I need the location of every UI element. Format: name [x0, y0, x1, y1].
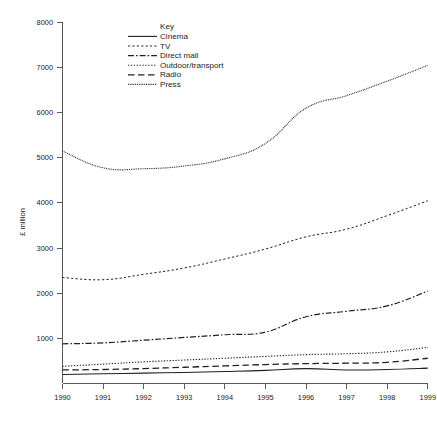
x-tick-label-1997: 1997	[338, 393, 354, 402]
legend-label-direct-mail: Direct mail	[160, 51, 198, 60]
legend-label-press: Press	[160, 80, 181, 89]
legend-label-cinema: Cinema	[160, 32, 188, 41]
chart-legend: Key CinemaTVDirect mailOutdoor/transport…	[128, 22, 224, 89]
legend-title: Key	[160, 22, 175, 31]
x-tick-label-1991: 1991	[95, 393, 111, 402]
series-line-radio	[63, 358, 428, 370]
y-tick-label-5000: 5000	[37, 153, 53, 162]
y-tick-label-1000: 1000	[37, 334, 53, 343]
legend-label-outdoor-transport: Outdoor/transport	[160, 61, 224, 70]
x-tick-label-1994: 1994	[217, 393, 233, 402]
x-tick-label-1998: 1998	[379, 393, 395, 402]
series-line-direct-mail	[63, 291, 428, 344]
y-tick-label-7000: 7000	[37, 63, 53, 72]
y-tick-label-2000: 2000	[37, 289, 53, 298]
y-tick-label-3000: 3000	[37, 244, 53, 253]
y-tick-label-4000: 4000	[37, 198, 53, 207]
y-tick-label-6000: 6000	[37, 108, 53, 117]
x-tick-label-1990: 1990	[54, 393, 70, 402]
x-tick-label-1995: 1995	[257, 393, 273, 402]
x-tick-label-1993: 1993	[176, 393, 192, 402]
x-axis-ticks: 1990 1991 1992 1993 1994 1995 1996 1997 …	[54, 384, 436, 403]
line-chart: 8000 7000 6000 5000 4000 3000 2000 1000 …	[0, 0, 437, 421]
chart-canvas: 8000 7000 6000 5000 4000 3000 2000 1000 …	[0, 0, 437, 421]
series-line-tv	[63, 201, 428, 280]
legend-label-radio: Radio	[160, 70, 182, 79]
y-tick-label-8000: 8000	[37, 18, 53, 27]
legend-label-tv: TV	[160, 42, 171, 51]
y-axis-title: £ million	[18, 208, 27, 236]
x-tick-label-1999: 1999	[420, 393, 436, 402]
x-tick-label-1992: 1992	[135, 393, 151, 402]
y-axis-ticks: 8000 7000 6000 5000 4000 3000 2000 1000	[37, 18, 63, 343]
series-line-press	[63, 65, 428, 170]
series-layer	[63, 65, 428, 374]
x-tick-label-1996: 1996	[298, 393, 314, 402]
